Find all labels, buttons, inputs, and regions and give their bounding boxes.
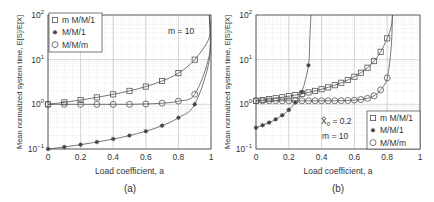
- asterisk-marker-lines: [78, 142, 83, 147]
- y-tick-label: 101: [239, 54, 252, 65]
- asterisk-marker-lines: [127, 133, 132, 138]
- asterisk-marker-lines: [371, 128, 376, 133]
- x-tick-label: 0: [46, 152, 51, 162]
- legend-entry: M/M/1: [62, 27, 86, 37]
- x-tick-labels: 00.20.40.60.81: [46, 152, 214, 162]
- y-tick-label: 10−1: [28, 143, 45, 154]
- legend-entry: m M/M/1: [380, 113, 413, 123]
- asterisk-marker-lines: [286, 108, 291, 113]
- asterisk-marker-lines: [260, 123, 265, 128]
- asterisk-marker-lines: [53, 30, 58, 35]
- x-axis-title: Load coefficient, a: [304, 166, 373, 176]
- y-tick-label: 102: [31, 9, 44, 20]
- legend-entry: M/M/m: [380, 138, 406, 148]
- asterisk-marker-lines: [267, 120, 272, 125]
- y-tick-label: 101: [31, 54, 44, 65]
- x-tick-label: 0.6: [140, 152, 152, 162]
- asterisk-marker-lines: [176, 115, 181, 120]
- x-tick-label: 0: [254, 152, 259, 162]
- panel-caption: (b): [332, 183, 344, 194]
- y-axis-title: Mean normalized system time, E[S]/E[X]: [223, 15, 232, 149]
- asterisk-marker-lines: [95, 140, 100, 145]
- legend: m M/M/1M/M/1M/M/m: [367, 111, 420, 149]
- y-tick-label: 100: [239, 98, 252, 109]
- y-tick-label: 10−1: [236, 143, 253, 154]
- y-axis-title: Mean normalized system time, E[S]/E[X]: [15, 15, 24, 149]
- x-tick-label: 0.2: [283, 152, 295, 162]
- annotation-x0: X̂0 = 0.2: [321, 116, 352, 127]
- legend-entry: M/M/1: [380, 125, 404, 135]
- x-tick-label: 1: [418, 152, 423, 162]
- figure: 00.20.40.60.8110−1100101102Load coeffici…: [0, 0, 434, 202]
- asterisk-marker-lines: [300, 89, 305, 94]
- asterisk-marker-lines: [143, 129, 148, 134]
- x-tick-label: 0.8: [381, 152, 393, 162]
- asterisk-marker-lines: [111, 137, 116, 142]
- y-tick-labels: 10−1100101102: [236, 9, 253, 154]
- asterisk-marker-lines: [160, 123, 165, 128]
- y-tick-label: 100: [31, 98, 44, 109]
- x-tick-label: 0.8: [172, 152, 184, 162]
- annotations: X̂0 = 0.2m = 10: [321, 116, 352, 141]
- annotation-m: m = 10: [322, 131, 348, 141]
- y-tick-label: 102: [239, 9, 252, 20]
- panel-caption: (a): [124, 183, 136, 194]
- x-tick-label: 0.2: [75, 152, 87, 162]
- x-tick-labels: 00.20.40.60.81: [254, 152, 423, 162]
- x-tick-label: 0.4: [316, 152, 328, 162]
- legend-entry: m M/M/1: [62, 15, 95, 25]
- x-tick-label: 1: [209, 152, 214, 162]
- legend: m M/M/1M/M/1M/M/m: [49, 13, 102, 52]
- asterisk-marker-lines: [192, 102, 197, 107]
- x-tick-label: 0.6: [348, 152, 360, 162]
- asterisk-marker-lines: [280, 113, 285, 118]
- chart-panel-a: 00.20.40.60.8110−1100101102Load coeffici…: [15, 0, 214, 194]
- asterisk-marker-lines: [273, 117, 278, 122]
- legend-entry: M/M/m: [62, 40, 88, 50]
- x-axis-title: Load coefficient, a: [95, 166, 164, 176]
- chart-panel-b: 00.20.40.60.8110−1100101102Load coeffici…: [223, 0, 423, 194]
- y-tick-labels: 10−1100101102: [28, 9, 45, 154]
- x-tick-label: 0.4: [107, 152, 119, 162]
- annotations: m = 10: [168, 26, 194, 36]
- asterisk-marker-lines: [306, 63, 311, 68]
- annotation-m: m = 10: [168, 26, 194, 36]
